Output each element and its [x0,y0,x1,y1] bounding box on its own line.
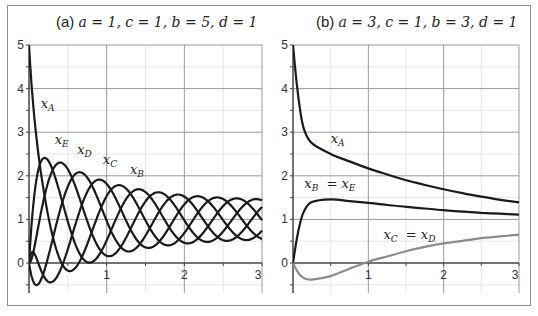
x-tick-label: 3 [255,268,262,282]
curve-label: xE [55,132,69,149]
y-tick-label: 1 [281,212,288,226]
curve-label: xC = xD [383,227,435,244]
curve-label: xB = xE [304,176,355,193]
curve-label: xA [41,96,55,113]
y-tick-label: 3 [281,125,288,139]
chart-canvas: 012345123xAxExDxCxB 012345123xAxB = xExC… [0,0,538,316]
y-tick-label: 2 [281,169,288,183]
plot-panel-b: 012345123xAxB = xExC = xD [281,38,519,293]
y-tick-label: 2 [17,169,24,183]
x-tick-label: 2 [440,268,447,282]
y-tick-label: 3 [17,125,24,139]
y-tick-label: 1 [17,212,24,226]
x-tick-label: 2 [181,268,188,282]
y-tick-label: 0 [281,256,288,270]
x-tick-label: 3 [512,268,519,282]
y-tick-label: 4 [17,82,24,96]
y-tick-label: 5 [281,38,288,52]
y-tick-label: 5 [17,38,24,52]
x-tick-label: 1 [365,268,372,282]
y-tick-label: 4 [281,82,288,96]
y-tick-label: 0 [17,256,24,270]
curve-label: xD [77,142,92,159]
curve-label: xB [130,162,144,179]
plot-panel-a: 012345123xAxExDxCxB [17,38,262,293]
x-tick-label: 1 [103,268,110,282]
curve-label: xA [331,131,345,148]
